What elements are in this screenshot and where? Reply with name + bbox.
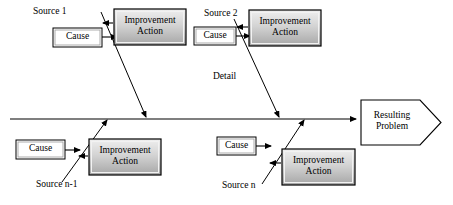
improvement-box-source-1[interactable]: [114, 9, 186, 45]
fishbone-diagram: Source 1 Source 2 Detail Source n-1 Sour…: [0, 0, 453, 205]
detail-label: Detail: [213, 71, 236, 81]
cause-box-source-2[interactable]: [194, 27, 236, 45]
source-2-label: Source 2: [204, 8, 238, 18]
improvement-box-source-n-1[interactable]: [89, 139, 161, 175]
cause-box-source-1[interactable]: [53, 28, 102, 47]
cause-box-source-n[interactable]: [217, 137, 256, 155]
resulting-problem-shape[interactable]: [361, 100, 441, 145]
fishbone-canvas: [0, 0, 453, 205]
improvement-box-source-n[interactable]: [282, 149, 355, 185]
improvement-box-source-2[interactable]: [249, 10, 321, 46]
source-n-1-label: Source n-1: [36, 179, 77, 189]
source-1-label: Source 1: [33, 6, 67, 16]
source-n-label: Source n: [222, 180, 256, 190]
cause-box-source-n-1[interactable]: [16, 140, 65, 159]
